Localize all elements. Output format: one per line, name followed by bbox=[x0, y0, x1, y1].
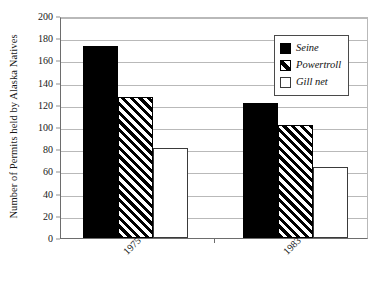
x-axis-tick-mark bbox=[214, 239, 215, 243]
diagonal-hatch-swatch-icon bbox=[280, 60, 291, 71]
y-axis-tick-label: 180 bbox=[38, 34, 53, 44]
y-axis-tick-label: 120 bbox=[38, 101, 53, 111]
x-axis-tick-label-1983: 1983 bbox=[281, 235, 303, 257]
y-axis-tick-label: 100 bbox=[38, 123, 53, 133]
y-axis-tick-label: 200 bbox=[38, 12, 53, 22]
y-axis-tick-label: 160 bbox=[38, 56, 53, 66]
legend-item-seine: Seine bbox=[280, 40, 341, 57]
y-axis-tick-labels: 020406080100120140160180200 bbox=[26, 17, 56, 239]
bar-gill-net-1983 bbox=[313, 167, 348, 238]
legend-label-gill-net: Gill net bbox=[296, 77, 328, 88]
bar-chart-figure: Number of Permits held by Alaska Natives… bbox=[0, 0, 381, 297]
y-axis-tick-label: 0 bbox=[48, 234, 53, 244]
bar-gill-net-1975 bbox=[153, 148, 188, 238]
legend-label-powertroll: Powertroll bbox=[296, 60, 341, 71]
y-axis-tick-label: 40 bbox=[43, 190, 53, 200]
y-axis-title: Number of Permits held by Alaska Natives bbox=[0, 0, 26, 252]
y-axis-tick-label: 80 bbox=[43, 145, 53, 155]
y-axis-tick-label: 60 bbox=[43, 167, 53, 177]
legend-item-gill-net: Gill net bbox=[280, 74, 341, 91]
y-axis-tick-label: 20 bbox=[43, 212, 53, 222]
white-swatch-icon bbox=[280, 77, 291, 88]
bar-seine-1983 bbox=[243, 103, 278, 238]
bar-powertroll-1983 bbox=[278, 125, 313, 238]
x-axis-tick-label-1975: 1975 bbox=[121, 235, 143, 257]
legend: Seine Powertroll Gill net bbox=[274, 35, 349, 96]
bar-powertroll-1975 bbox=[118, 97, 153, 238]
legend-item-powertroll: Powertroll bbox=[280, 57, 341, 74]
x-axis: 19751983 bbox=[60, 239, 368, 297]
y-axis-tick-label: 140 bbox=[38, 79, 53, 89]
solid-black-swatch-icon bbox=[280, 43, 291, 54]
bar-seine-1975 bbox=[83, 46, 118, 238]
legend-label-seine: Seine bbox=[296, 43, 319, 54]
y-axis-title-text: Number of Permits held by Alaska Natives bbox=[8, 34, 19, 218]
